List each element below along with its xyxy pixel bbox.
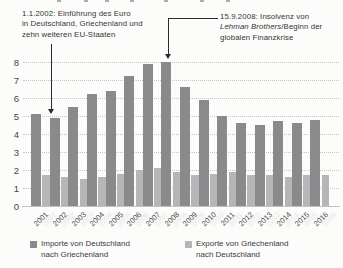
bar-import-2015 xyxy=(292,123,302,206)
x-axis-tick-label-2013: 2013 xyxy=(256,210,274,228)
x-axis-tick-label-2011: 2011 xyxy=(219,210,237,228)
legend-label: Exporte von Griechenland nach Deutschlan… xyxy=(196,239,289,260)
bar-import-2009 xyxy=(180,87,190,206)
bar-import-2008 xyxy=(161,62,171,206)
bar-chart-figure: 1.1.2002: Einführung des Euro in Deutsch… xyxy=(0,0,343,268)
y-axis-tick-label: 4 xyxy=(1,129,19,140)
x-axis-tick-label-2004: 2004 xyxy=(88,210,106,228)
bar-import-2014 xyxy=(273,121,283,206)
annotation-line: in Deutschland, Griechenland und xyxy=(22,19,182,29)
bar-import-2003 xyxy=(68,107,78,206)
annotation-line: 15.9.2008: Insolvenz von xyxy=(220,12,340,22)
x-axis-tick-label-2001: 2001 xyxy=(32,210,50,228)
x-axis-tick-label-2006: 2006 xyxy=(125,210,143,228)
annotation-line: 1.1.2002: Einführung des Euro xyxy=(22,9,182,19)
y-axis-tick-label: 7 xyxy=(1,75,19,86)
legend-item-exports: Exporte von Griechenland nach Deutschlan… xyxy=(185,239,289,260)
bar-import-2007 xyxy=(143,64,153,206)
y-axis-tick-label: 6 xyxy=(1,93,19,104)
x-axis-tick-label-2003: 2003 xyxy=(69,210,87,228)
bar-import-2002 xyxy=(50,118,60,206)
bar-import-2006 xyxy=(124,76,134,206)
lehman-annotation-connector-line xyxy=(168,18,218,19)
x-axis-tick-label-2012: 2012 xyxy=(237,210,255,228)
gridline-y-8 xyxy=(23,62,339,63)
imports-swatch-icon xyxy=(30,241,37,248)
bar-export-2016 xyxy=(322,175,330,206)
bar-import-2001 xyxy=(31,114,41,206)
x-axis-tick-label-2010: 2010 xyxy=(200,210,218,228)
legend-item-imports: Importe von Deutschland nach Griechenlan… xyxy=(30,239,130,260)
x-axis-tick-label-2009: 2009 xyxy=(181,210,199,228)
bar-import-2013 xyxy=(255,125,265,206)
x-axis-tick-label-2005: 2005 xyxy=(107,210,125,228)
x-axis-tick-label-2007: 2007 xyxy=(144,210,162,228)
annotation-lehman-insolvency: 15.9.2008: Insolvenz von Lehman Brothers… xyxy=(220,12,340,43)
x-axis-line xyxy=(22,206,340,207)
bar-import-2016 xyxy=(310,120,320,206)
annotation-line: zehn weiteren EU-Staaten xyxy=(22,30,182,40)
x-axis-tick-label-2015: 2015 xyxy=(293,210,311,228)
bar-import-2011 xyxy=(217,116,227,206)
y-axis-tick-label: 1 xyxy=(1,183,19,194)
lehman-annotation-connector-line xyxy=(168,18,169,54)
y-axis-tick-label: 3 xyxy=(1,147,19,158)
bar-import-2004 xyxy=(87,94,97,206)
y-axis-tick-label: 2 xyxy=(1,165,19,176)
y-axis-tick-label: 5 xyxy=(1,111,19,122)
x-axis-tick-label-2008: 2008 xyxy=(163,210,181,228)
bar-import-2010 xyxy=(199,100,209,206)
euro-annotation-connector-line xyxy=(51,44,52,109)
euro-annotation-arrow-icon xyxy=(48,109,54,114)
gridline-y-7 xyxy=(23,80,339,81)
y-axis-tick-label: 8 xyxy=(1,57,19,68)
legend-label: Importe von Deutschland nach Griechenlan… xyxy=(41,239,130,260)
x-axis-tick-label-2014: 2014 xyxy=(274,210,292,228)
x-axis-tick-label-2002: 2002 xyxy=(51,210,69,228)
lehman-annotation-arrow-icon xyxy=(165,54,171,59)
bar-import-2012 xyxy=(236,123,246,206)
y-axis-tick-label: 0 xyxy=(1,201,19,212)
x-axis-tick-label-2016: 2016 xyxy=(312,210,330,228)
bar-import-2005 xyxy=(106,91,116,206)
annotation-line: Lehman Brothers/Beginn der xyxy=(220,22,340,32)
annotation-line: globalen Finanzkrise xyxy=(220,33,340,43)
annotation-euro-introduction: 1.1.2002: Einführung des Euro in Deutsch… xyxy=(22,9,182,40)
exports-swatch-icon xyxy=(185,241,192,248)
